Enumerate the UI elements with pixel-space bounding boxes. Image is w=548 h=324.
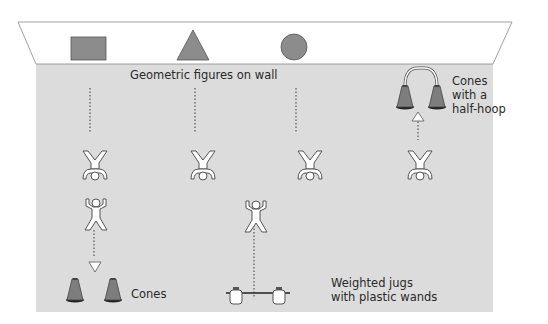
cones-hoop-label: Cones with a half-hoop [452, 74, 506, 116]
wall-circle-shape [281, 34, 307, 60]
cones-label: Cones [131, 287, 166, 301]
diagram: Geometric figures on wall Cones with a h… [0, 0, 548, 324]
gym-floor [36, 64, 493, 312]
wall-rectangle-shape [71, 37, 106, 60]
jugs-label: Weighted jugs with plastic wands [331, 276, 437, 304]
wall-label: Geometric figures on wall [130, 68, 278, 82]
